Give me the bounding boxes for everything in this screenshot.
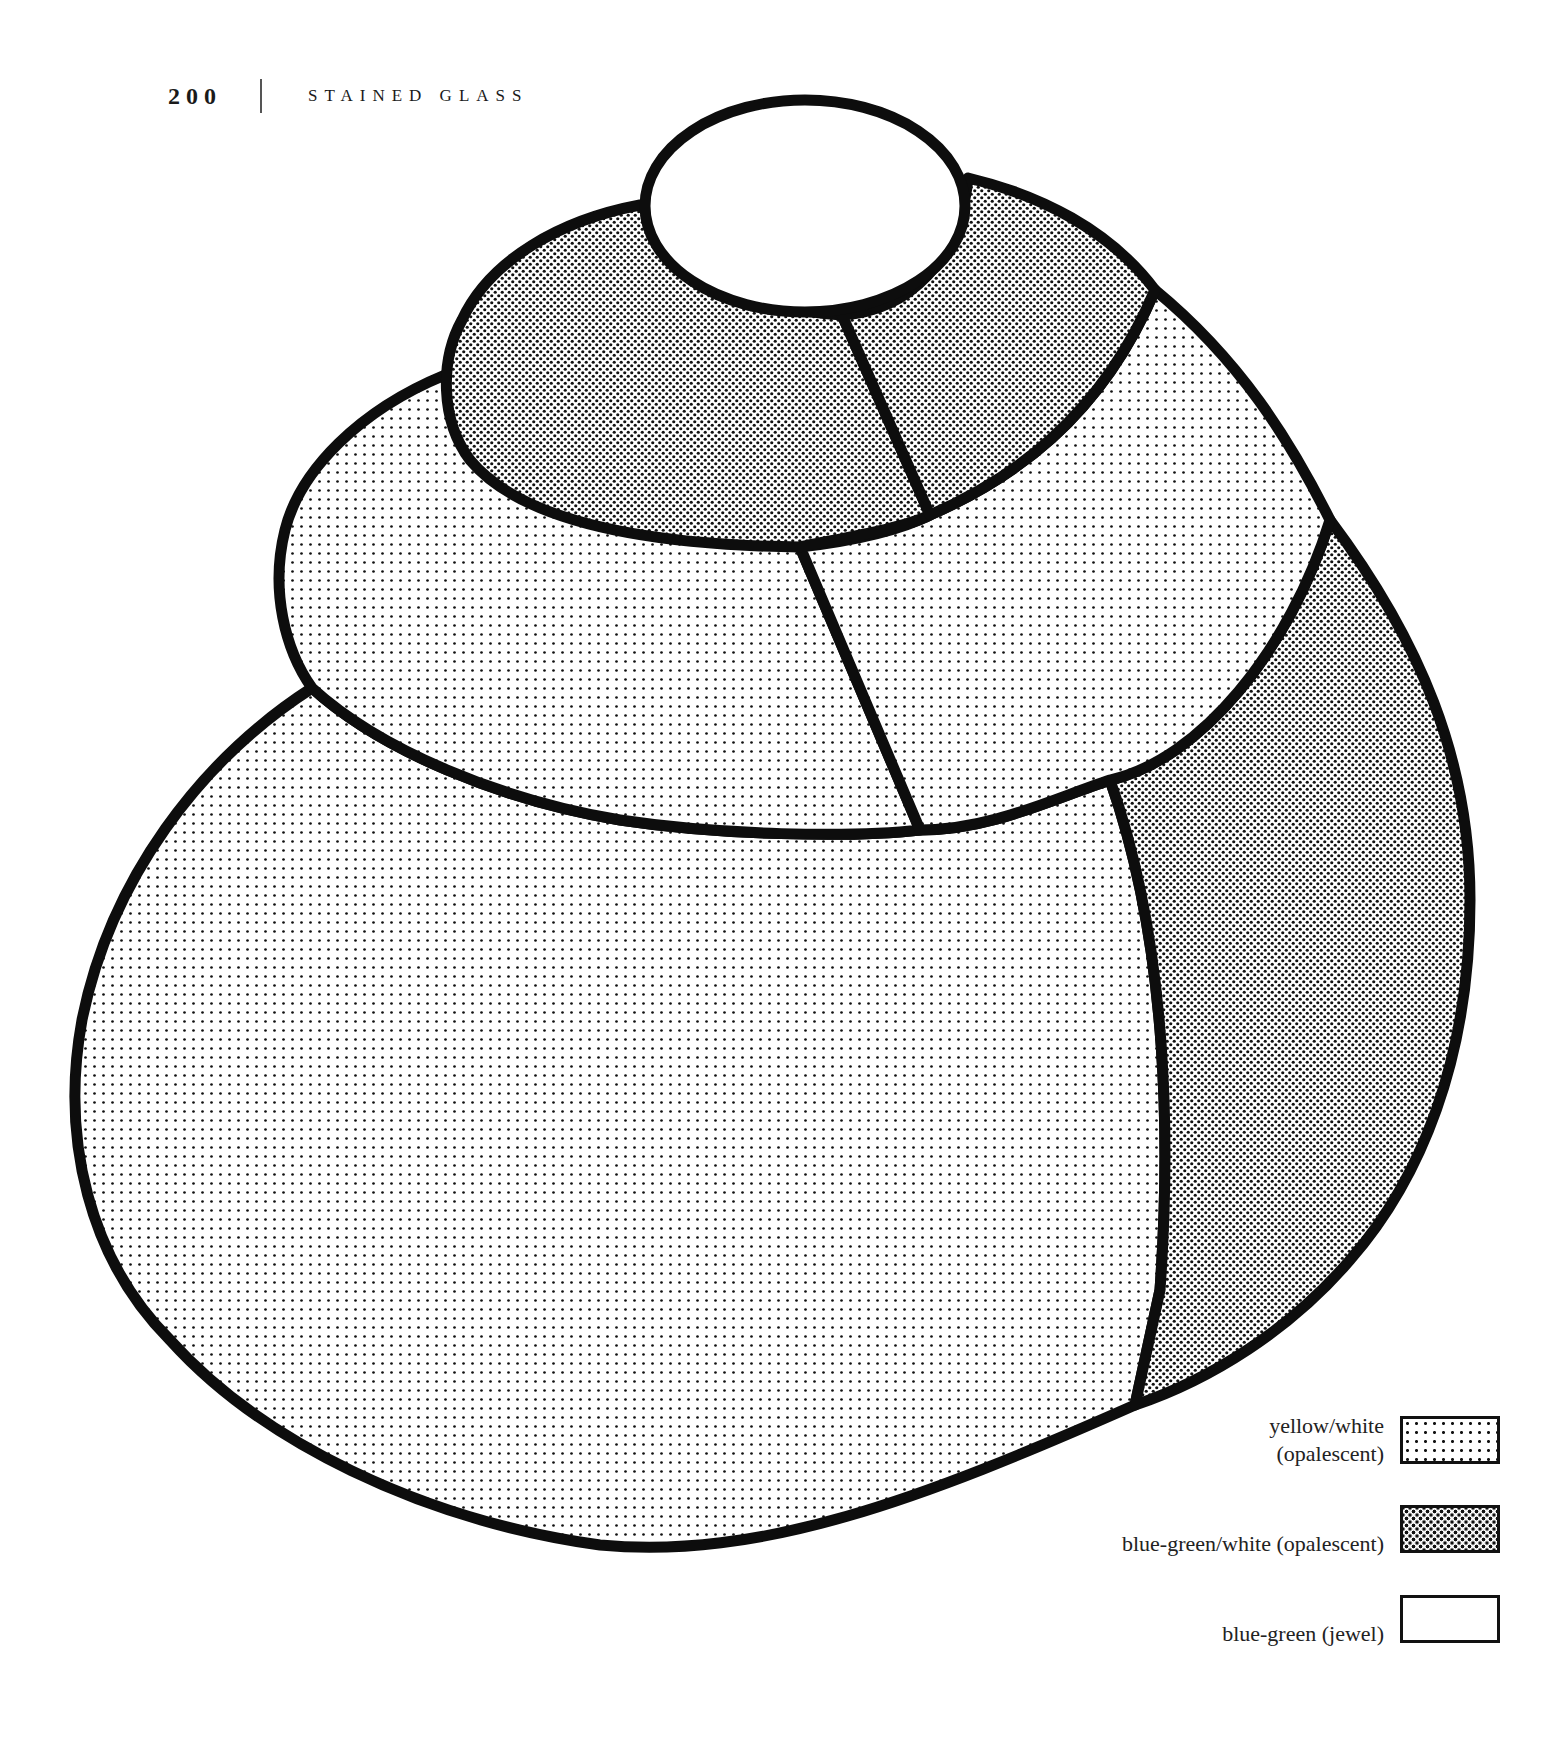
swatch-dense-dots-icon <box>1400 1505 1500 1553</box>
piece-top-oval <box>645 100 965 312</box>
legend-label-line1: blue-green (jewel) <box>1222 1620 1384 1648</box>
legend-label-line1: blue-green/white (opalescent) <box>1122 1530 1384 1558</box>
legend-item-blue-green-white: blue-green/white (opalescent) <box>1122 1500 1500 1558</box>
legend-label-line1: yellow/white <box>1269 1412 1384 1440</box>
legend-item-blue-green-jewel: blue-green (jewel) <box>1222 1590 1500 1648</box>
swatch-light-dots-icon <box>1400 1416 1500 1464</box>
legend-label-line2: (opalescent) <box>1269 1440 1384 1468</box>
legend-item-yellow-white: yellow/white (opalescent) <box>1269 1412 1500 1468</box>
swatch-plain-icon <box>1400 1595 1500 1643</box>
stained-glass-pattern <box>0 0 1565 1747</box>
